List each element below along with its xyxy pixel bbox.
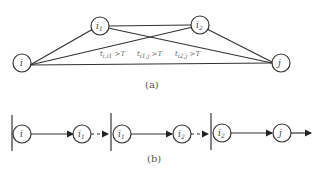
condition-3: ti2,j >T (175, 50, 201, 60)
condition-1: ti,i1 >T (100, 50, 126, 59)
node-b-i2-b: i2 (213, 124, 231, 142)
node-i1: i1 (91, 17, 109, 35)
node-j: j (272, 54, 290, 72)
diagram-canvas: i i1 i2 j ti,i1 >T ti1,j >T ti2,j >T (a)… (0, 0, 321, 174)
caption-a: (a) (145, 79, 159, 90)
node-i2: i2 (191, 16, 209, 34)
diagram-a-edges (30, 25, 272, 65)
diagram-b: i i1 i1 i2 i2 j (12, 113, 311, 151)
svg-text:i: i (20, 129, 23, 139)
node-b-i: i (13, 125, 31, 143)
node-i: i (13, 54, 31, 72)
node-b-i2-a: i2 (173, 125, 191, 143)
condition-2: ti1,j >T (137, 50, 163, 60)
node-b-i1-a: i1 (73, 125, 91, 143)
caption-b: (b) (147, 153, 161, 164)
node-b-j: j (273, 124, 291, 142)
node-b-i1-b: i1 (113, 125, 131, 143)
svg-text:i: i (20, 58, 23, 68)
